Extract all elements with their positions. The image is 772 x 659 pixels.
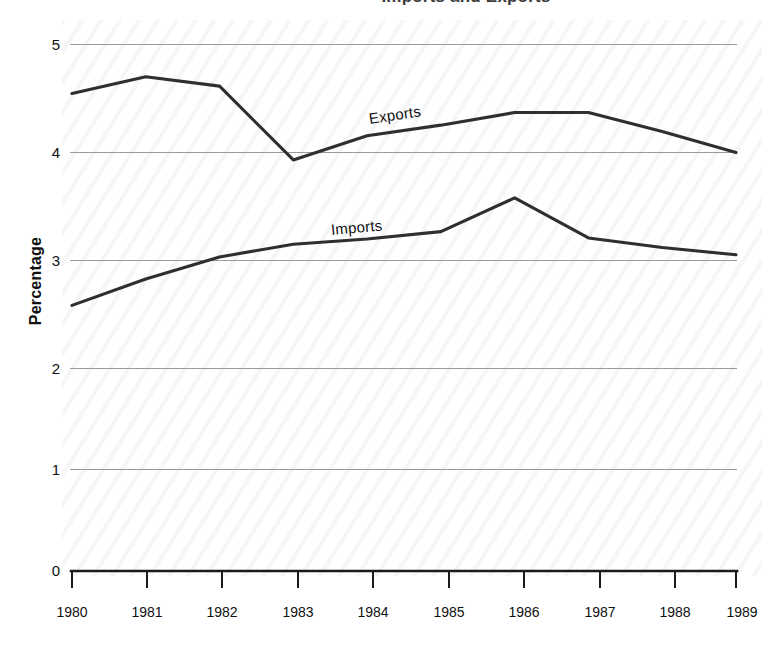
data-line-exports bbox=[72, 77, 736, 160]
data-series-group bbox=[72, 77, 736, 306]
chart-figure: Imports and Exports Percentage 5 4 3 2 1… bbox=[0, 0, 772, 659]
data-line-imports bbox=[72, 198, 736, 306]
gridlines bbox=[70, 44, 737, 469]
plot-area bbox=[0, 0, 772, 659]
x-axis bbox=[71, 571, 737, 588]
